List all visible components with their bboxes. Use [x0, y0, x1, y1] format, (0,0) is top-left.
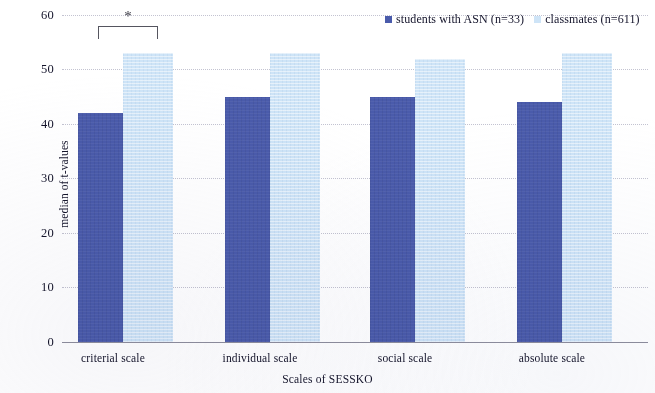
- bar-criterial-classmates: [123, 53, 173, 342]
- y-tick-0: 0: [8, 335, 54, 350]
- x-tick-social-scale: social scale: [340, 352, 470, 364]
- bar-criterial-students-with-asn: [78, 113, 123, 342]
- y-tick-60: 60: [8, 8, 54, 23]
- bar-absolute-students-with-asn: [517, 102, 562, 342]
- significance-asterisk: *: [98, 9, 158, 24]
- legend-label-classmates: classmates (n=611): [545, 12, 639, 27]
- chart-legend: students with ASN (n=33) classmates (n=6…: [385, 12, 640, 27]
- x-tick-individual-scale: individual scale: [195, 352, 325, 364]
- bar-chart: 60 50 40 30 20 10 0 median of t-values *: [0, 0, 655, 393]
- bar-individual-classmates: [270, 53, 320, 342]
- legend-entry-classmates: classmates (n=611): [534, 12, 639, 27]
- y-tick-20: 20: [8, 226, 54, 241]
- legend-entry-students-with-asn: students with ASN (n=33): [385, 12, 524, 27]
- bar-social-classmates: [415, 59, 465, 342]
- x-axis-baseline: [62, 342, 648, 343]
- y-tick-30: 30: [8, 171, 54, 186]
- bar-social-students-with-asn: [370, 97, 415, 342]
- x-tick-absolute-scale: absolute scale: [487, 352, 617, 364]
- legend-label-students-with-asn: students with ASN (n=33): [396, 12, 524, 27]
- bar-individual-students-with-asn: [225, 97, 270, 342]
- x-tick-criterial-scale: criterial scale: [48, 352, 178, 364]
- y-tick-40: 40: [8, 117, 54, 132]
- y-tick-10: 10: [8, 280, 54, 295]
- significance-bracket: [98, 26, 158, 39]
- bar-absolute-classmates: [562, 53, 612, 342]
- x-axis-title: Scales of SESSKO: [0, 373, 655, 385]
- y-tick-50: 50: [8, 62, 54, 77]
- legend-swatch-icon-series-a: [385, 16, 392, 23]
- legend-swatch-icon-series-b: [534, 16, 541, 23]
- plot-area: *: [62, 15, 648, 342]
